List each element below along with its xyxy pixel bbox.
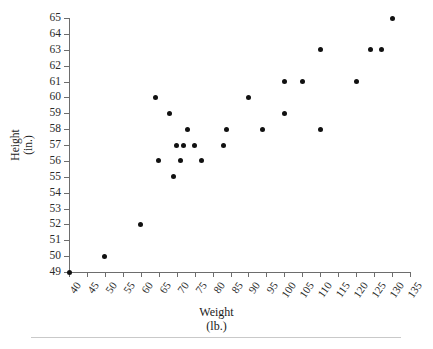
y-tick-label: 54	[50, 187, 62, 199]
y-tick-mark	[64, 177, 69, 178]
data-point	[318, 127, 323, 132]
data-point	[171, 174, 176, 179]
plot-area: 4950515253545556575859606162636465 40455…	[69, 18, 410, 272]
footer-divider	[31, 337, 401, 338]
y-tick-mark	[64, 66, 69, 67]
x-tick-label: 80	[211, 280, 226, 295]
y-tick-label: 56	[50, 155, 62, 167]
data-point	[318, 47, 323, 52]
x-tick-label: 110	[316, 280, 334, 299]
data-point	[282, 111, 287, 116]
x-tick-mark	[213, 272, 214, 277]
data-point	[178, 158, 183, 163]
y-tick-label: 57	[50, 139, 62, 151]
y-tick-label: 64	[50, 28, 62, 40]
data-point	[138, 222, 143, 227]
y-tick-label: 65	[50, 12, 62, 24]
x-tick-label: 65	[157, 280, 172, 295]
y-tick-label: 52	[50, 219, 62, 231]
data-point	[174, 143, 179, 148]
data-point	[221, 143, 226, 148]
y-tick-mark	[64, 145, 69, 146]
x-tick-mark	[374, 272, 375, 277]
y-tick-label: 51	[50, 235, 62, 247]
x-tick-label: 55	[122, 280, 137, 295]
data-point	[192, 143, 197, 148]
data-point	[282, 79, 287, 84]
x-tick-mark	[266, 272, 267, 277]
y-tick-label: 49	[50, 266, 62, 278]
x-tick-mark	[356, 272, 357, 277]
y-tick-mark	[64, 34, 69, 35]
x-tick-label: 45	[86, 280, 101, 295]
x-tick-label: 130	[388, 280, 406, 300]
scatter-plot-figure: 4950515253545556575859606162636465 40455…	[0, 0, 433, 349]
x-tick-mark	[302, 272, 303, 277]
y-tick-mark	[64, 224, 69, 225]
x-tick-mark	[141, 272, 142, 277]
y-tick-mark	[64, 161, 69, 162]
y-tick-mark	[64, 209, 69, 210]
y-tick-mark	[64, 240, 69, 241]
y-tick-mark	[64, 50, 69, 51]
data-point	[224, 127, 229, 132]
x-tick-label: 75	[193, 280, 208, 295]
data-point	[167, 111, 172, 116]
y-axis-title-line2: (in.)	[22, 135, 34, 154]
x-tick-mark	[177, 272, 178, 277]
x-tick-mark	[410, 272, 411, 277]
x-tick-label: 70	[175, 280, 190, 295]
x-tick-mark	[392, 272, 393, 277]
x-tick-label: 85	[229, 280, 244, 295]
y-tick-label: 62	[50, 60, 62, 72]
y-tick-mark	[64, 82, 69, 83]
x-axis-title-line2: (lb.)	[0, 319, 433, 333]
y-tick-label: 61	[50, 76, 62, 88]
x-tick-mark	[320, 272, 321, 277]
data-point	[368, 47, 373, 52]
y-tick-label: 63	[50, 44, 62, 56]
y-tick-mark	[64, 18, 69, 19]
data-point	[199, 158, 204, 163]
y-tick-label: 60	[50, 92, 62, 104]
y-tick-label: 55	[50, 171, 62, 183]
data-point	[260, 127, 265, 132]
x-tick-label: 100	[280, 280, 298, 300]
data-point	[153, 95, 158, 100]
data-point	[181, 143, 186, 148]
x-tick-mark	[105, 272, 106, 277]
data-point	[156, 158, 161, 163]
y-tick-mark	[64, 193, 69, 194]
data-point	[246, 95, 251, 100]
x-tick-label: 120	[352, 280, 370, 300]
x-tick-mark	[195, 272, 196, 277]
x-tick-label: 125	[370, 280, 388, 300]
y-tick-mark	[64, 129, 69, 130]
x-tick-mark	[338, 272, 339, 277]
data-point	[102, 254, 107, 259]
y-axis-title: Height (in.)	[9, 129, 35, 160]
x-tick-mark	[248, 272, 249, 277]
x-axis-line	[69, 272, 411, 273]
data-point	[67, 270, 72, 275]
y-tick-label: 59	[50, 108, 62, 120]
y-tick-label: 50	[50, 250, 62, 262]
x-tick-label: 105	[298, 280, 316, 300]
data-point	[185, 127, 190, 132]
data-point	[390, 16, 395, 21]
x-tick-mark	[284, 272, 285, 277]
y-tick-mark	[64, 256, 69, 257]
x-tick-mark	[87, 272, 88, 277]
data-point	[379, 47, 384, 52]
x-tick-label: 115	[334, 280, 352, 299]
x-axis-title-line1: Weight	[199, 305, 233, 319]
x-tick-label: 90	[247, 280, 262, 295]
data-point	[300, 79, 305, 84]
x-tick-label: 50	[104, 280, 119, 295]
data-point	[354, 79, 359, 84]
x-tick-label: 60	[139, 280, 154, 295]
y-tick-mark	[64, 97, 69, 98]
y-tick-mark	[64, 113, 69, 114]
x-tick-mark	[123, 272, 124, 277]
x-tick-label: 135	[406, 280, 424, 300]
